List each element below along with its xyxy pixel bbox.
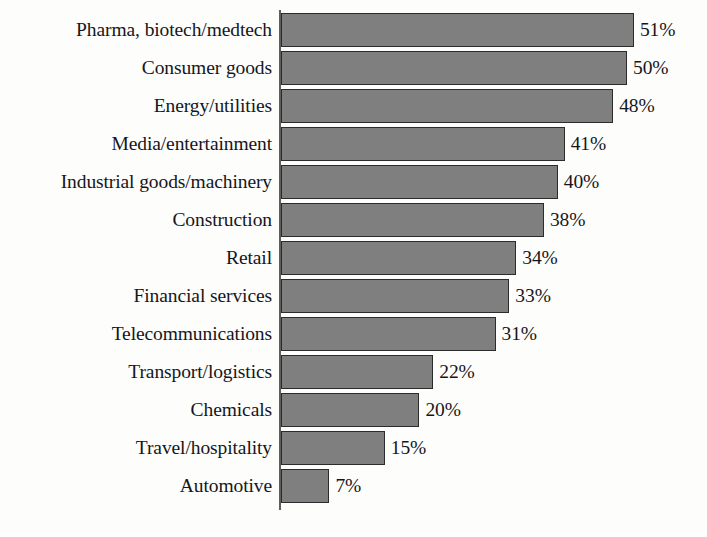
category-label: Travel/hospitality (0, 431, 272, 465)
category-label: Telecommunications (0, 317, 272, 351)
bar-value-label: 15% (391, 431, 426, 465)
bar-track: 20% (281, 393, 461, 427)
bar (281, 241, 516, 275)
bar-value-label: 7% (335, 469, 361, 503)
bar-row: Chemicals20% (0, 393, 707, 431)
bar-row: Automotive7% (0, 469, 707, 507)
bar-row: Consumer goods50% (0, 51, 707, 89)
bar-track: 38% (281, 203, 585, 237)
bar-value-label: 38% (550, 203, 585, 237)
plot-area: Pharma, biotech/medtech51%Consumer goods… (0, 0, 707, 537)
bar-track: 33% (281, 279, 551, 313)
bar-value-label: 51% (640, 13, 675, 47)
bar (281, 355, 433, 389)
bar-row: Retail34% (0, 241, 707, 279)
category-label: Chemicals (0, 393, 272, 427)
category-label: Pharma, biotech/medtech (0, 13, 272, 47)
bar-value-label: 31% (502, 317, 537, 351)
category-label: Retail (0, 241, 272, 275)
bar (281, 431, 385, 465)
bar-row: Pharma, biotech/medtech51% (0, 13, 707, 51)
bar-track: 22% (281, 355, 475, 389)
category-label: Financial services (0, 279, 272, 313)
bar (281, 469, 329, 503)
bar-row: Travel/hospitality15% (0, 431, 707, 469)
bar (281, 165, 558, 199)
bar-chart: Pharma, biotech/medtech51%Consumer goods… (0, 0, 707, 537)
bar-track: 34% (281, 241, 558, 275)
bar-track: 15% (281, 431, 426, 465)
bar-row: Transport/logistics22% (0, 355, 707, 393)
bar (281, 51, 627, 85)
category-label: Consumer goods (0, 51, 272, 85)
bar-track: 40% (281, 165, 599, 199)
category-label: Industrial goods/machinery (0, 165, 272, 199)
bar-value-label: 40% (564, 165, 599, 199)
bar-row: Financial services33% (0, 279, 707, 317)
bar-rows: Pharma, biotech/medtech51%Consumer goods… (0, 13, 707, 507)
bar (281, 13, 634, 47)
bar-track: 50% (281, 51, 668, 85)
category-label: Automotive (0, 469, 272, 503)
bar-track: 41% (281, 127, 606, 161)
bar (281, 203, 544, 237)
bar-track: 31% (281, 317, 537, 351)
bar-value-label: 33% (515, 279, 550, 313)
bar-value-label: 41% (571, 127, 606, 161)
bar-row: Industrial goods/machinery40% (0, 165, 707, 203)
bar-track: 48% (281, 89, 655, 123)
bar-track: 51% (281, 13, 675, 47)
bar-row: Energy/utilities48% (0, 89, 707, 127)
bar-value-label: 22% (439, 355, 474, 389)
bar-row: Construction38% (0, 203, 707, 241)
bar-value-label: 20% (425, 393, 460, 427)
bar (281, 127, 565, 161)
category-label: Construction (0, 203, 272, 237)
category-label: Energy/utilities (0, 89, 272, 123)
bar (281, 317, 496, 351)
bar (281, 89, 613, 123)
category-label: Transport/logistics (0, 355, 272, 389)
category-label: Media/entertainment (0, 127, 272, 161)
bar-value-label: 48% (619, 89, 654, 123)
bar (281, 279, 509, 313)
bar (281, 393, 419, 427)
bar-value-label: 34% (522, 241, 557, 275)
bar-value-label: 50% (633, 51, 668, 85)
bar-row: Media/entertainment41% (0, 127, 707, 165)
bar-row: Telecommunications31% (0, 317, 707, 355)
bar-track: 7% (281, 469, 361, 503)
